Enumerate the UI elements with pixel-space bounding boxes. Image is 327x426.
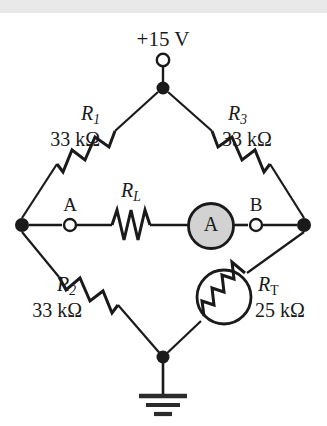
rt-symbol-letter: R — [258, 273, 270, 295]
supply-terminal-icon[interactable] — [157, 54, 169, 66]
rl-resistor-zigzag-icon — [112, 210, 150, 240]
r3-symbol-letter: R — [228, 102, 240, 124]
left-bridge-node-icon — [15, 218, 29, 232]
wire-right-node-to-rt — [247, 232, 304, 273]
circuit-diagram-page: +15 V R1 33 kΩ R3 33 kΩ RL A B A R2 33 k… — [0, 0, 327, 426]
rt-value-label: 25 kΩ — [255, 300, 305, 322]
rl-symbol-letter: R — [121, 179, 133, 201]
r3-symbol-label: R3 — [228, 103, 247, 127]
right-bridge-node-icon — [297, 218, 311, 232]
terminal-a-icon[interactable] — [64, 219, 76, 231]
r1-symbol-letter: R — [81, 102, 93, 124]
terminal-b-label: B — [241, 195, 271, 216]
wire-rt-to-ground-node — [163, 321, 201, 357]
r2-symbol-letter: R — [57, 273, 69, 295]
wire-apex-to-r1 — [115, 92, 158, 131]
thermistor-body-circle-icon — [197, 270, 251, 324]
wire-r1-to-left-node — [22, 164, 57, 218]
rt-symbol-subscript: T — [270, 283, 278, 298]
rt-symbol-label: RT — [258, 274, 279, 298]
rl-symbol-subscript: L — [133, 189, 141, 204]
terminal-a-label: A — [55, 195, 85, 216]
r3-value-label: 33 kΩ — [222, 129, 272, 151]
terminal-b-icon[interactable] — [250, 219, 262, 231]
wire-left-node-to-r2 — [22, 232, 59, 277]
wire-r3-to-right-node — [270, 164, 304, 218]
r3-symbol-subscript: 3 — [240, 112, 247, 127]
r2-symbol-label: R2 — [0, 274, 76, 298]
r1-value-label: 33 kΩ — [0, 129, 100, 151]
ammeter-letter-label: A — [196, 214, 226, 236]
wire-r2-to-ground-node — [118, 305, 163, 357]
circuit-schematic — [0, 0, 327, 426]
r1-symbol-label: R1 — [0, 103, 100, 127]
r2-value-label: 33 kΩ — [0, 300, 82, 322]
wire-apex-to-r3 — [168, 92, 212, 131]
rl-symbol-label: RL — [98, 180, 164, 204]
r1-symbol-subscript: 1 — [93, 112, 100, 127]
supply-voltage-label: +15 V — [118, 28, 208, 51]
r2-symbol-subscript: 2 — [69, 283, 76, 298]
